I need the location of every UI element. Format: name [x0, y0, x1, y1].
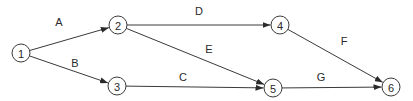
edge-b: B	[30, 56, 109, 83]
node-2: 2	[109, 16, 127, 34]
node-1: 1	[12, 44, 30, 62]
node-label: 2	[115, 20, 121, 32]
edge-e: E	[126, 28, 264, 84]
edge-arrow	[30, 56, 109, 83]
edge-c: C	[126, 71, 264, 88]
edge-label: G	[317, 71, 326, 83]
node-6: 6	[382, 78, 400, 96]
edge-arrow	[282, 87, 382, 88]
node-3: 3	[108, 77, 126, 95]
edge-arrow	[288, 29, 383, 82]
node-4: 4	[271, 16, 289, 34]
edges-layer: ABCDEFG	[30, 5, 383, 88]
edge-label: A	[55, 16, 63, 28]
edge-a: A	[30, 16, 109, 51]
edge-label: D	[195, 5, 203, 17]
edge-arrow	[30, 28, 109, 51]
node-label: 3	[114, 81, 120, 93]
edge-label: F	[341, 35, 348, 47]
edge-label: E	[205, 43, 212, 55]
node-label: 6	[388, 82, 394, 94]
edge-d: D	[127, 5, 271, 25]
node-label: 5	[270, 83, 276, 95]
edge-arrow	[126, 28, 264, 84]
node-label: 4	[277, 20, 283, 32]
node-label: 1	[18, 48, 24, 60]
edge-f: F	[288, 29, 383, 82]
edge-label: C	[179, 71, 187, 83]
edge-arrow	[126, 86, 264, 88]
network-diagram: ABCDEFG 123456	[0, 0, 413, 101]
nodes-layer: 123456	[12, 16, 400, 97]
node-5: 5	[264, 79, 282, 97]
edge-label: B	[71, 57, 78, 69]
